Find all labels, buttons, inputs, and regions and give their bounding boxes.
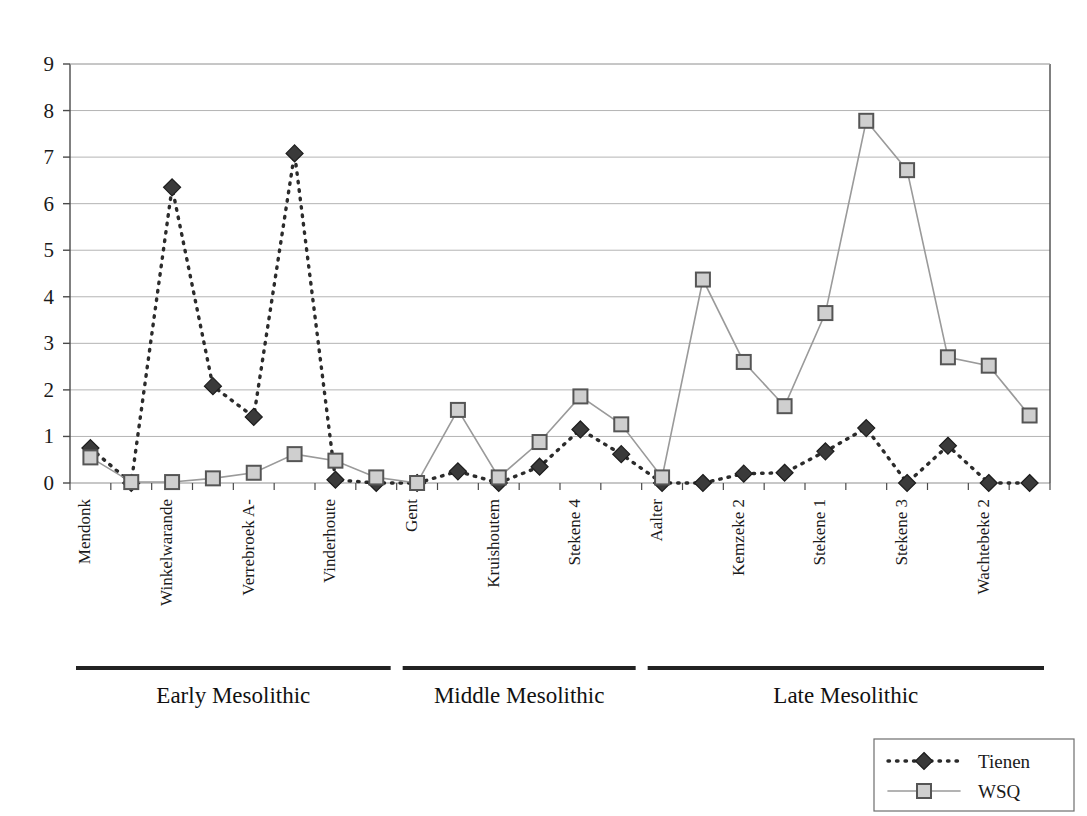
data-point-wsq-7 xyxy=(369,470,383,484)
ytick-label-6: 6 xyxy=(44,192,55,216)
data-point-wsq-10 xyxy=(492,470,506,484)
ytick-label-9: 9 xyxy=(44,52,55,76)
data-point-wsq-0 xyxy=(83,450,97,464)
chart-legend[interactable]: TienenWSQ xyxy=(874,739,1074,811)
group-label-early-mesolithic: Early Mesolithic xyxy=(156,683,310,708)
chart-canvas: 0123456789 MendonkWinkelwarandeVerrebroe… xyxy=(0,0,1087,816)
xtick-label-wachtebeke-2: Wachtebeke 2 xyxy=(974,499,993,594)
ytick-label-3: 3 xyxy=(44,331,55,355)
group-label-middle-mesolithic: Middle Mesolithic xyxy=(434,683,605,708)
ytick-label-1: 1 xyxy=(44,424,55,448)
data-point-wsq-2 xyxy=(165,475,179,489)
ytick-label-7: 7 xyxy=(44,145,55,169)
data-point-wsq-3 xyxy=(206,471,220,485)
legend-box xyxy=(874,739,1074,811)
data-point-wsq-14 xyxy=(655,470,669,484)
data-point-wsq-9 xyxy=(451,403,465,417)
xtick-label-kruishoutem: Kruishoutem xyxy=(484,499,503,588)
data-point-wsq-17 xyxy=(778,399,792,413)
data-point-wsq-22 xyxy=(982,359,996,373)
legend-square-marker xyxy=(917,784,931,798)
data-point-wsq-13 xyxy=(614,417,628,431)
mesolithic-lithic-chart: 0123456789 MendonkWinkelwarandeVerrebroe… xyxy=(0,0,1087,816)
ytick-label-0: 0 xyxy=(44,471,55,495)
xtick-label-mendonk: Mendonk xyxy=(75,499,94,565)
xtick-label-vinderhoute: Vinderhoute xyxy=(320,499,339,583)
data-point-wsq-4 xyxy=(247,466,261,480)
data-point-wsq-19 xyxy=(859,114,873,128)
data-point-wsq-11 xyxy=(533,435,547,449)
xtick-label-winkelwarande: Winkelwarande xyxy=(157,499,176,606)
data-point-wsq-8 xyxy=(410,476,424,490)
xtick-label-stekene-3: Stekene 3 xyxy=(892,499,911,566)
data-point-wsq-16 xyxy=(737,355,751,369)
xtick-label-aalter: Aalter xyxy=(647,499,666,542)
group-label-late-mesolithic: Late Mesolithic xyxy=(773,683,918,708)
xtick-label-kemzeke-2: Kemzeke 2 xyxy=(729,499,748,576)
xtick-label-verrebroek-a: Verrebroek A- xyxy=(239,499,258,596)
data-point-wsq-6 xyxy=(328,454,342,468)
data-point-wsq-21 xyxy=(941,350,955,364)
data-point-wsq-5 xyxy=(288,447,302,461)
ytick-label-8: 8 xyxy=(44,99,55,123)
ytick-label-5: 5 xyxy=(44,238,55,262)
xtick-label-stekene-4: Stekene 4 xyxy=(565,499,584,566)
data-point-wsq-12 xyxy=(573,389,587,403)
data-point-wsq-20 xyxy=(900,163,914,177)
data-point-wsq-15 xyxy=(696,273,710,287)
ytick-label-2: 2 xyxy=(44,378,55,402)
xtick-label-stekene-1: Stekene 1 xyxy=(810,499,829,566)
data-point-wsq-1 xyxy=(124,475,138,489)
data-point-wsq-18 xyxy=(818,306,832,320)
legend-label-wsq: WSQ xyxy=(978,781,1021,802)
xtick-label-gent: Gent xyxy=(402,499,421,532)
data-point-wsq-23 xyxy=(1023,408,1037,422)
legend-label-tienen: Tienen xyxy=(978,751,1031,772)
ytick-label-4: 4 xyxy=(44,285,55,309)
